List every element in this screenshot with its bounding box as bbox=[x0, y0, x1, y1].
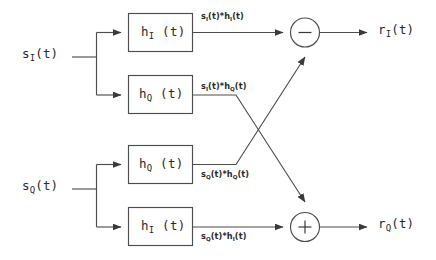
input-label-sq: sQ(t) bbox=[22, 180, 58, 195]
output-label-ri: rI(t) bbox=[378, 24, 414, 39]
output-label-rq: rQ(t) bbox=[378, 218, 414, 233]
block-diagram: sI(t) sQ(t) hI (t) hQ (t) hQ (t) hI (t) … bbox=[0, 0, 436, 260]
edge-label-sq-hq: sQ(t)*hQ(t) bbox=[201, 170, 249, 180]
diagram-canvas bbox=[0, 0, 436, 260]
edge-label-sq-hi: sQ(t)*hI(t) bbox=[201, 232, 247, 242]
input-label-si: sI(t) bbox=[22, 48, 58, 63]
filter-label-hq-lower: hQ (t) bbox=[139, 158, 184, 173]
edge-label-si-hq: sI(t)*hQ(t) bbox=[201, 82, 247, 92]
wire-hq-lower-to-minus bbox=[193, 57, 306, 165]
filter-label-hq-upper: hQ (t) bbox=[139, 88, 184, 103]
wire-hq-upper-to-plus bbox=[193, 95, 306, 202]
edge-label-si-hi: sI(t)*hI(t) bbox=[201, 12, 244, 22]
filter-label-hi-bottom: hI (t) bbox=[141, 220, 186, 235]
filter-label-hi-top: hI (t) bbox=[141, 26, 186, 41]
